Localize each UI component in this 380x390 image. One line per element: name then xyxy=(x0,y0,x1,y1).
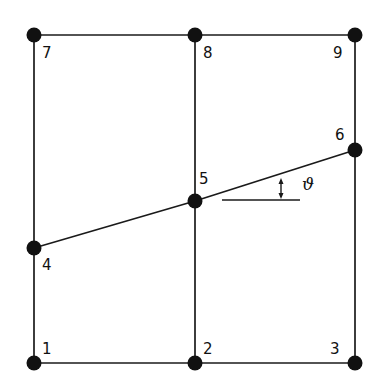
mesh-diagram: ϑ 123456789 xyxy=(0,0,380,390)
node-label-5: 5 xyxy=(199,170,209,188)
node-4 xyxy=(27,241,42,256)
node-label-9: 9 xyxy=(333,44,343,62)
node-label-3: 3 xyxy=(330,340,340,358)
node-label-6: 6 xyxy=(335,126,345,144)
node-9 xyxy=(348,28,363,43)
arrowhead-bottom-icon xyxy=(279,193,284,199)
node-1 xyxy=(27,356,42,371)
edge-5-6 xyxy=(195,150,355,201)
node-label-1: 1 xyxy=(42,340,52,358)
node-5 xyxy=(188,194,203,209)
node-7 xyxy=(27,28,42,43)
arrowhead-top-icon xyxy=(279,178,284,184)
angle-label: ϑ xyxy=(302,174,314,194)
node-label-7: 7 xyxy=(42,44,52,62)
node-label-8: 8 xyxy=(203,44,213,62)
node-8 xyxy=(188,28,203,43)
edge-4-5 xyxy=(34,201,195,248)
node-label-4: 4 xyxy=(42,256,52,274)
node-3 xyxy=(348,356,363,371)
node-2 xyxy=(188,356,203,371)
node-6 xyxy=(348,143,363,158)
node-label-2: 2 xyxy=(203,340,213,358)
